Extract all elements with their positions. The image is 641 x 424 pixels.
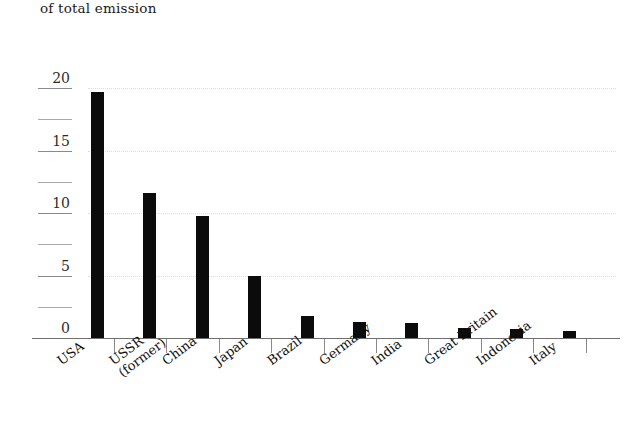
y-axis-label: 20 — [30, 70, 70, 86]
bar-chart: of total emission 05101520 USAUSSR(forme… — [0, 0, 641, 424]
y-axis-label: 0 — [30, 320, 70, 336]
x-axis-label: India — [369, 337, 405, 369]
x-axis-label-line: USA — [55, 339, 87, 368]
bar — [91, 92, 104, 338]
y-axis-tick-minor — [38, 307, 72, 308]
bar — [405, 323, 418, 338]
gridline — [88, 151, 616, 152]
y-axis-label: 15 — [30, 133, 70, 149]
plot-area: 05101520 USAUSSR(former)ChinaJapanBrazil… — [0, 0, 641, 424]
y-axis-tick-minor — [38, 182, 72, 183]
y-axis-tick-minor — [38, 244, 72, 245]
y-axis-tick — [38, 213, 72, 214]
x-axis-tick — [586, 339, 587, 353]
x-axis-label: USSR(former) — [107, 324, 169, 380]
x-axis-label-line: Germany — [317, 321, 374, 369]
gridline — [88, 213, 616, 214]
x-axis-line — [32, 338, 620, 339]
bar — [248, 276, 261, 339]
bar — [301, 316, 314, 339]
bar — [563, 331, 576, 339]
y-axis-label: 10 — [30, 195, 70, 211]
y-axis-tick-minor — [38, 119, 72, 120]
x-axis-label: USA — [55, 339, 87, 368]
x-axis-label: Germany — [317, 321, 374, 369]
y-axis-tick — [38, 276, 72, 277]
x-axis-label: Italy — [527, 339, 559, 368]
y-axis-label: 5 — [30, 258, 70, 274]
gridline — [88, 88, 616, 89]
x-axis-label-line: India — [369, 337, 405, 369]
bar — [143, 193, 156, 338]
y-axis-tick — [38, 88, 72, 89]
x-axis-label-line: Italy — [527, 339, 559, 368]
bar — [196, 216, 209, 339]
y-axis-tick — [38, 151, 72, 152]
gridline — [88, 276, 616, 277]
